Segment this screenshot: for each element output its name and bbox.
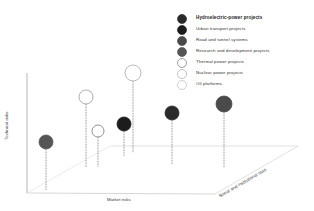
legend-label: Road and tunnel systems xyxy=(196,37,248,42)
legend-label: Thermal power projects xyxy=(196,59,244,64)
y-axis-label: Technical risks xyxy=(4,111,9,140)
z-axis xyxy=(215,146,298,194)
data-point-bubble xyxy=(92,125,104,137)
legend-label: Urban transport projects xyxy=(196,26,246,31)
data-point-bubble xyxy=(165,106,179,120)
risk-chart xyxy=(0,0,314,211)
data-point-bubble xyxy=(39,135,53,149)
data-point-bubble xyxy=(117,117,131,131)
legend-label: Research and development projects xyxy=(196,48,270,53)
legend-label: Oil platforms xyxy=(196,81,222,86)
legend-marker-icon xyxy=(176,79,188,91)
legend-label: Nuclear power projects xyxy=(196,70,243,75)
x-axis-label: Market risks xyxy=(107,197,131,202)
floor-left-edge xyxy=(27,146,110,193)
data-point-bubble xyxy=(125,65,141,81)
x-axis xyxy=(27,193,215,194)
legend-label: Hydroelectric-power projects xyxy=(196,15,262,20)
data-point-bubble xyxy=(216,96,232,112)
data-point-bubble xyxy=(79,90,93,104)
